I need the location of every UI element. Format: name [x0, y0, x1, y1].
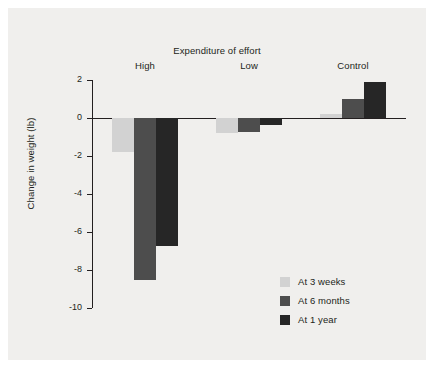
bar — [112, 118, 134, 152]
bar — [156, 118, 178, 246]
y-tick-label: -4 — [46, 188, 82, 198]
bar — [216, 118, 238, 133]
legend-item[interactable]: At 3 weeks — [280, 272, 350, 291]
legend-label: At 1 year — [298, 314, 337, 325]
bar — [260, 118, 282, 125]
y-tick-mark — [87, 118, 92, 119]
legend-item[interactable]: At 1 year — [280, 310, 350, 329]
y-axis-label: Change in weight (lb) — [25, 84, 36, 244]
chart-figure: Expenditure of effort High Low Control C… — [8, 8, 426, 360]
y-tick-label: 0 — [46, 112, 82, 122]
bar — [342, 99, 364, 118]
bar — [238, 118, 260, 132]
group-label-control: Control — [313, 60, 393, 71]
y-tick-mark — [87, 194, 92, 195]
y-tick-mark — [87, 308, 92, 309]
y-tick-mark — [87, 232, 92, 233]
bar — [320, 114, 342, 118]
bar — [134, 118, 156, 280]
chart-title: Expenditure of effort — [8, 45, 426, 56]
y-tick-label: -10 — [46, 302, 82, 312]
y-tick-label: 2 — [46, 74, 82, 84]
bar — [364, 82, 386, 118]
y-tick-label: -2 — [46, 150, 82, 160]
y-tick-mark — [87, 270, 92, 271]
legend-swatch-icon — [280, 296, 290, 306]
group-label-low: Low — [209, 60, 289, 71]
chart-legend: At 3 weeksAt 6 monthsAt 1 year — [280, 272, 350, 329]
y-tick-label: -8 — [46, 264, 82, 274]
y-axis-line — [92, 80, 93, 308]
legend-label: At 3 weeks — [298, 276, 345, 287]
y-tick-mark — [87, 80, 92, 81]
group-label-high: High — [105, 60, 185, 71]
legend-swatch-icon — [280, 315, 290, 325]
y-tick-label: -6 — [46, 226, 82, 236]
y-tick-mark — [87, 156, 92, 157]
legend-item[interactable]: At 6 months — [280, 291, 350, 310]
legend-swatch-icon — [280, 277, 290, 287]
legend-label: At 6 months — [298, 295, 350, 306]
